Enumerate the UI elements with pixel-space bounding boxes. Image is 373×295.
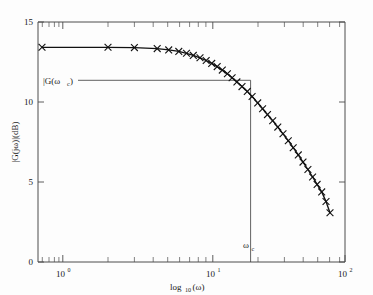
- axis-frame-path: [38, 22, 345, 262]
- data-point-marker: [305, 166, 312, 173]
- y-axis-title: |G(jω)|(dB): [10, 121, 20, 162]
- y-axis-tick-labels: 0 5 10 15: [24, 17, 34, 267]
- bode-magnitude-figure: 0 5 10 15: [0, 0, 373, 295]
- x-tick-label-100-exp: 2: [350, 267, 353, 273]
- axes-frame: [38, 22, 345, 262]
- data-point-marker: [190, 52, 197, 59]
- cutoff-frequency-sub: c: [252, 245, 255, 252]
- data-point-marker: [327, 209, 334, 216]
- x-tick-label-10-base: 10: [206, 269, 216, 279]
- data-point-marker: [280, 130, 287, 137]
- x-axis-minor-ticks: [42, 22, 345, 262]
- x-tick-label-10-exp: 1: [218, 267, 221, 273]
- data-point-marker: [295, 152, 302, 159]
- x-axis-title-base: log: [170, 282, 182, 292]
- data-point-marker: [300, 159, 307, 166]
- gain-at-cutoff-tail: ): [70, 76, 73, 86]
- data-point-marker: [249, 93, 256, 100]
- gain-at-cutoff-text: |G(ω: [43, 76, 60, 86]
- y-tick-label-15: 15: [24, 17, 34, 27]
- data-point-marker: [259, 105, 266, 112]
- magnitude-series: [42, 47, 330, 212]
- magnitude-curve: [42, 47, 330, 212]
- y-axis-ticks: [38, 22, 345, 262]
- data-point-marker: [314, 181, 321, 188]
- cutoff-frequency-label: ω c: [243, 240, 255, 252]
- magnitude-markers: [39, 44, 334, 216]
- data-point-marker: [309, 174, 316, 181]
- data-point-marker: [197, 54, 204, 61]
- x-axis-title-sub: 10: [185, 286, 191, 293]
- y-tick-label-0: 0: [29, 257, 34, 267]
- x-tick-label-1-base: 10: [56, 269, 66, 279]
- x-tick-label-100-base: 10: [338, 269, 348, 279]
- plot-canvas: 0 5 10 15: [0, 0, 373, 295]
- data-point-marker: [323, 198, 330, 205]
- cutoff-frequency-text: ω: [243, 240, 249, 250]
- y-tick-label-5: 5: [29, 177, 34, 187]
- data-point-marker: [285, 137, 292, 144]
- data-point-marker: [254, 100, 261, 107]
- gain-at-cutoff-label: |G(ω c ): [43, 76, 73, 88]
- x-axis-title-tail: (ω): [193, 282, 205, 292]
- x-axis-title: log 10 (ω): [170, 282, 204, 293]
- data-point-marker: [219, 67, 226, 74]
- data-point-marker: [290, 144, 297, 151]
- data-point-marker: [264, 111, 271, 118]
- y-tick-label-10: 10: [24, 97, 34, 107]
- data-point-marker: [274, 124, 281, 131]
- annotation-leaders: [78, 80, 251, 262]
- x-axis-tick-labels: 10 0 10 1 10 2: [56, 267, 353, 279]
- y-axis-title-text: |G(jω)|(dB): [10, 121, 20, 162]
- x-tick-label-1-exp: 0: [68, 267, 71, 273]
- data-point-marker: [318, 189, 325, 196]
- data-point-marker: [269, 117, 276, 124]
